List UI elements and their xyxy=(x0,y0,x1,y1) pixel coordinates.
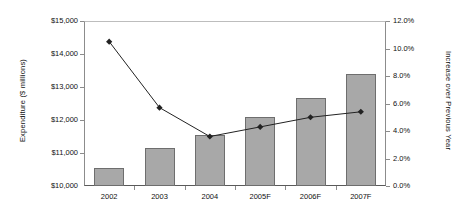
right-axis-tick-mark xyxy=(386,131,390,132)
left-axis-tick-label: $13,000 xyxy=(36,83,78,91)
right-axis-tick-label: 8.0% xyxy=(393,72,435,80)
bar xyxy=(195,135,225,186)
right-axis-tick-mark xyxy=(386,76,390,77)
right-axis-tick-label: 0.0% xyxy=(393,182,435,190)
category-axis-label: 2006F xyxy=(286,192,336,201)
left-axis-tick-label: $14,000 xyxy=(36,50,78,58)
category-axis-tick-mark xyxy=(285,186,286,190)
right-axis-tick-mark xyxy=(386,159,390,160)
category-axis-label: 2002 xyxy=(84,192,134,201)
category-axis-label: 2004 xyxy=(185,192,235,201)
left-axis-tick-label: $10,000 xyxy=(36,182,78,190)
right-axis-tick-mark xyxy=(386,186,390,187)
left-axis-tick-label: $12,000 xyxy=(36,116,78,124)
bar xyxy=(145,148,175,186)
category-axis-label: 2005F xyxy=(235,192,285,201)
right-axis-tick-mark xyxy=(386,104,390,105)
bar xyxy=(346,74,376,186)
right-axis-tick-label: 6.0% xyxy=(393,100,435,108)
left-axis-tick-label: $11,000 xyxy=(36,149,78,157)
right-axis-tick-label: 12.0% xyxy=(393,17,435,25)
category-axis-tick-mark xyxy=(336,186,337,190)
category-axis-tick-mark xyxy=(134,186,135,190)
bar xyxy=(245,117,275,186)
right-axis-tick-label: 4.0% xyxy=(393,127,435,135)
bar xyxy=(94,168,124,186)
category-axis-tick-mark xyxy=(185,186,186,190)
right-axis-tick-mark xyxy=(386,21,390,22)
bar xyxy=(296,98,326,186)
right-axis-title: Increase over Previous Year xyxy=(444,31,453,171)
right-axis-tick-mark xyxy=(386,49,390,50)
plot-area xyxy=(84,21,386,186)
chart-container: Expenditure ($ millions) Increase over P… xyxy=(0,0,463,215)
right-axis-tick-label: 2.0% xyxy=(393,155,435,163)
right-axis-tick-label: 10.0% xyxy=(393,45,435,53)
category-axis-label: 2003 xyxy=(135,192,185,201)
left-axis-tick-label: $15,000 xyxy=(36,17,78,25)
left-axis-title: Expenditure ($ millions) xyxy=(18,31,27,171)
category-axis-label: 2007F xyxy=(336,192,386,201)
category-axis-tick-mark xyxy=(235,186,236,190)
